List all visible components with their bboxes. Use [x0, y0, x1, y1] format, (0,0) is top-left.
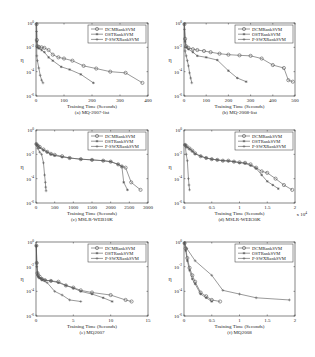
y-axis-label: η: [168, 57, 171, 63]
y-axis-label: η: [20, 57, 23, 63]
x-axis-label: Training Time (Seconds): [67, 104, 117, 109]
x-tick-label: 400: [144, 98, 152, 103]
x-axis-label: Training Time (Seconds): [67, 211, 117, 216]
x-tick-label: 0.5: [209, 318, 216, 323]
x-axis-label: Training Time (Seconds): [215, 324, 265, 329]
x-tick-label: 0: [183, 318, 186, 323]
x-tick-label: 3000: [143, 205, 154, 210]
x-tick-label: 1.5: [264, 318, 271, 323]
y-tick-label: 10-2: [26, 44, 34, 51]
y-tick-label: 100: [27, 20, 34, 27]
legend-label: P-SWXRankSVM: [252, 37, 286, 42]
y-tick-label: 10-4: [174, 68, 182, 75]
x-tick-label: 2: [294, 205, 297, 210]
chart-panel-c: 05001000150020002500300010010-210-410-6T…: [20, 127, 153, 223]
x-tick-label: 1000: [68, 205, 79, 210]
y-tick-label: 100: [175, 239, 182, 246]
x-tick-label: 500: [291, 98, 299, 103]
y-tick-label: 10-4: [26, 175, 34, 182]
y-tick-label: 10-6: [174, 313, 182, 320]
x-tick-label: 0: [35, 318, 38, 323]
x-tick-label: 0: [183, 205, 186, 210]
y-tick-label: 10-2: [174, 44, 182, 51]
legend: DCMRankSVMOSTRankSVMP-SWXRankSVM: [235, 132, 293, 150]
x-tick-label: 200: [88, 98, 96, 103]
y-axis-label: η: [20, 276, 23, 282]
x-tick-label: 2000: [106, 205, 117, 210]
panel-caption: (c) MSLR-WEB10K: [71, 217, 113, 222]
legend: DCMRankSVMOSTRankSVMP-SWXRankSVM: [235, 25, 293, 43]
y-tick-label: 10-2: [174, 151, 182, 158]
x-tick-label: 0: [35, 205, 38, 210]
x-tick-label: 0.5: [209, 205, 216, 210]
x-tick-label: 1: [238, 318, 241, 323]
y-tick-label: 10-2: [26, 151, 34, 158]
x-tick-label: 15: [146, 318, 152, 323]
y-axis-label: η: [20, 164, 23, 170]
legend-label: P-SWXRankSVM: [252, 144, 286, 149]
y-tick-label: 10-2: [174, 263, 182, 270]
y-tick-label: 100: [27, 127, 34, 134]
legend-label: P-SWXRankSVM: [252, 256, 286, 261]
y-tick-label: 100: [27, 239, 34, 246]
legend: DCMRankSVMOSTRankSVMP-SWXRankSVM: [88, 25, 146, 43]
legend: DCMRankSVMOSTRankSVMP-SWXRankSVM: [88, 244, 146, 262]
y-tick-label: 100: [175, 127, 182, 134]
y-tick-label: 10-4: [26, 288, 34, 295]
x-axis-label: Training Time (Seconds): [215, 104, 265, 109]
x-tick-label: 500: [51, 205, 59, 210]
legend-label: P-SWXRankSVM: [105, 144, 139, 149]
panel-caption: (e) MQ2007: [80, 330, 105, 335]
x-tick-label: 0: [35, 98, 38, 103]
y-tick-label: 10-6: [26, 200, 34, 207]
x-tick-label: 2: [294, 318, 297, 323]
x-tick-label: 2500: [124, 205, 135, 210]
y-tick-label: 100: [175, 20, 182, 27]
panel-caption: (d) MSLR-WEB30K: [218, 217, 260, 222]
x-tick-label: 400: [269, 98, 277, 103]
legend: DCMRankSVMOSTRankSVMP-SWXRankSVM: [235, 244, 293, 262]
chart-panel-f: 00.511.5210010-210-410-6Training Time (S…: [168, 239, 296, 336]
y-tick-label: 10-4: [26, 68, 34, 75]
x-tick-label: 5: [72, 318, 75, 323]
figure: 010020030040010010-210-410-6Training Tim…: [0, 0, 315, 357]
chart-panel-b: 010020030040050010010-210-410-6Training …: [168, 20, 299, 116]
panel-caption: (b) MQ-2008-list: [222, 110, 257, 115]
x-tick-label: 300: [116, 98, 124, 103]
y-tick-label: 10-6: [174, 200, 182, 207]
panel-caption: (a) MQ-2007-list: [75, 110, 110, 115]
x-tick-label: 200: [225, 98, 233, 103]
chart-panel-d: 00.511.5210010-210-410-6Training Time (S…: [168, 127, 307, 223]
y-axis-label: η: [168, 276, 171, 282]
x-axis-label: Training Time (Seconds): [215, 211, 265, 216]
x-axis-multiplier: x 104: [297, 211, 308, 218]
x-tick-label: 1: [238, 205, 241, 210]
y-tick-label: 10-2: [26, 263, 34, 270]
y-tick-label: 10-4: [174, 288, 182, 295]
chart-panel-a: 010020030040010010-210-410-6Training Tim…: [20, 20, 152, 116]
x-tick-label: 300: [247, 98, 255, 103]
y-tick-label: 10-6: [174, 93, 182, 100]
y-tick-label: 10-6: [26, 313, 34, 320]
x-tick-label: 100: [60, 98, 68, 103]
x-tick-label: 1.5: [264, 205, 271, 210]
legend-label: P-SWXRankSVM: [105, 256, 139, 261]
x-tick-label: 1500: [87, 205, 98, 210]
legend: DCMRankSVMOSTRankSVMP-SWXRankSVM: [88, 132, 146, 150]
legend-label: P-SWXRankSVM: [105, 37, 139, 42]
x-axis-label: Training Time (Seconds): [67, 324, 117, 329]
x-tick-label: 10: [108, 318, 114, 323]
y-axis-label: η: [168, 164, 171, 170]
x-tick-label: 100: [202, 98, 210, 103]
x-tick-label: 0: [183, 98, 186, 103]
panel-caption: (f) MQ2008: [227, 330, 252, 335]
y-tick-label: 10-6: [26, 93, 34, 100]
chart-panel-e: 05101510010-210-410-6Training Time (Seco…: [20, 239, 151, 336]
y-tick-label: 10-4: [174, 175, 182, 182]
